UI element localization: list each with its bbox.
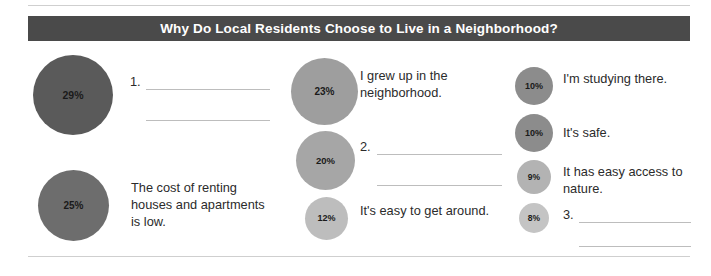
bubble-value-label: 12% [317, 214, 335, 223]
bubble-8-percent: 8% [519, 203, 549, 233]
bubble-29-percent: 29% [33, 55, 113, 135]
bubble-25-percent: 25% [38, 170, 109, 241]
statement-cost-of-renting: The cost of renting houses and apartment… [131, 180, 271, 231]
blank-write-line-1b[interactable] [146, 120, 270, 121]
page-title: Why Do Local Residents Choose to Live in… [160, 21, 558, 36]
infographic-page: Why Do Local Residents Choose to Live in… [0, 0, 711, 276]
blank-write-line-3a[interactable] [579, 222, 691, 223]
blank-write-line-2b[interactable] [377, 185, 502, 186]
bubble-20-percent: 20% [296, 131, 355, 190]
blank-number-3: 3. [563, 209, 574, 222]
bottom-divider-rule [28, 256, 690, 257]
bubble-value-label: 9% [528, 173, 540, 182]
bubble-value-label: 20% [316, 156, 335, 166]
bubble-value-label: 23% [314, 87, 334, 97]
bubble-12-percent: 12% [305, 197, 348, 240]
statement-access-to-nature: It has easy access to nature. [563, 164, 703, 198]
top-divider-rule [28, 5, 690, 6]
statement-its-safe: It's safe. [563, 125, 693, 142]
statement-studying-there: I'm studying there. [563, 71, 693, 88]
blank-number-2: 2. [360, 141, 371, 154]
bubble-23-percent: 23% [291, 58, 358, 125]
blank-answer-3: 3. [563, 209, 691, 251]
statement-easy-to-get-around: It's easy to get around. [360, 203, 490, 220]
bubble-10-percent-safe: 10% [515, 114, 553, 152]
bubble-value-label: 29% [62, 90, 83, 101]
bubble-value-label: 8% [528, 214, 540, 223]
bubble-value-label: 10% [525, 129, 543, 138]
bubble-10-percent-studying: 10% [515, 67, 553, 105]
bubble-value-label: 10% [525, 82, 543, 91]
blank-answer-2: 2. [360, 141, 502, 191]
blank-number-1: 1. [130, 76, 141, 89]
statement-grew-up-here: I grew up in the neighborhood. [360, 68, 496, 102]
blank-write-line-3b[interactable] [579, 246, 691, 247]
bubble-9-percent: 9% [517, 160, 551, 194]
bubble-value-label: 25% [63, 201, 83, 211]
chart-title-bar: Why Do Local Residents Choose to Live in… [28, 16, 690, 41]
blank-write-line-1a[interactable] [146, 89, 270, 90]
blank-write-line-2a[interactable] [377, 154, 502, 155]
blank-answer-1: 1. [130, 76, 270, 126]
